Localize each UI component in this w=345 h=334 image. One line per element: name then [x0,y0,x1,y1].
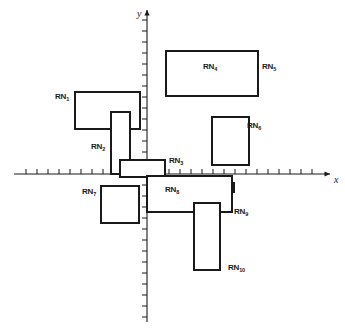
label-base-text: RN [91,142,102,151]
label-subscript: 10 [239,267,245,273]
label-base-text: RN [228,263,239,272]
label-subscript: 7 [93,191,96,197]
label-rn9: RN9 [234,208,248,216]
label-base-text: RN [169,156,180,165]
rectangle-rn6 [212,117,249,165]
rectangles-group [75,51,258,270]
label-subscript: 8 [176,189,179,195]
rectangle-rn5 [166,51,258,96]
label-base-text: RN [165,185,176,194]
label-subscript: 6 [258,125,261,131]
x-axis-arrowhead [325,171,331,176]
label-rn3: RN3 [169,157,183,165]
label-rn1: RN1 [55,93,69,101]
diagram-canvas: y x RN1RN2RN3RN4RN5RN6RN7RN8RN9RN10 [0,0,345,334]
label-rn8: RN8 [165,186,179,194]
rectangle-rn3 [120,160,165,177]
label-subscript: 3 [180,160,183,166]
rectangle-rn7 [101,186,139,223]
label-base-text: RN [82,187,93,196]
label-rn10: RN10 [228,264,245,272]
label-subscript: 1 [66,96,69,102]
x-axis-label: x [334,175,338,185]
label-subscript: 4 [214,66,217,72]
label-subscript: 5 [273,66,276,72]
label-base-text: RN [234,207,245,216]
y-axis-label: y [137,9,141,19]
label-subscript: 9 [245,211,248,217]
label-base-text: RN [55,92,66,101]
label-rn4: RN4 [203,63,217,71]
rectangle-rn10 [194,203,220,270]
label-rn5: RN5 [262,63,276,71]
label-base-text: RN [247,121,258,130]
label-rn7: RN7 [82,188,96,196]
label-base-text: RN [262,62,273,71]
y-axis-arrowhead [144,10,149,16]
label-base-text: RN [203,62,214,71]
label-rn6: RN6 [247,122,261,130]
label-rn2: RN2 [91,143,105,151]
label-subscript: 2 [102,146,105,152]
coordinate-plane-svg [0,0,345,334]
